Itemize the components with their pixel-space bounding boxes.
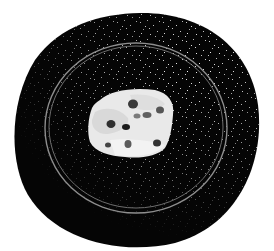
specimen-blob bbox=[88, 89, 173, 158]
petri-dish-illustration bbox=[0, 0, 274, 251]
